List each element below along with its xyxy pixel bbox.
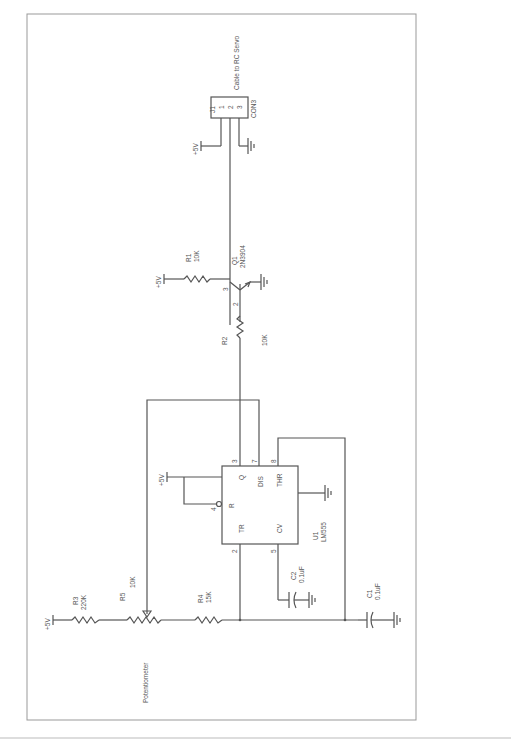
ground-icon [309, 592, 315, 608]
ic-pin-5: 5 [270, 549, 277, 553]
schematic-canvas: J1 1 2 3 CON3 Cable to RC Servo +5V +5V … [0, 0, 511, 747]
j1-part: CON3 [250, 100, 257, 118]
r5-value: 10K [129, 576, 136, 588]
j1-pin-1: 1 [218, 105, 225, 109]
supply-label-j1: +5V [192, 143, 199, 155]
supply-label-r1: +5V [155, 276, 162, 288]
q1-ref: Q1 [231, 256, 239, 265]
j1-pin-3: 3 [236, 105, 243, 109]
capacitor-c2 [278, 592, 309, 608]
resistor-r1 [164, 274, 230, 284]
ground-icon [248, 138, 254, 154]
ic-label-thr: THR [276, 473, 283, 487]
junction-dot [344, 619, 347, 622]
supply-label-ic: +5V [158, 474, 165, 486]
ground-icon [261, 274, 267, 290]
ic-part: LM555 [320, 522, 327, 542]
transistor-q1 [230, 282, 261, 322]
ic-label-q: Q [238, 475, 246, 480]
q1-part: 2N3904 [239, 245, 246, 268]
j1-description: Cable to RC Servo [233, 35, 240, 90]
ic-label-cv: CV [276, 523, 283, 533]
potentiometer-r5 [127, 611, 161, 623]
ground-icon [325, 485, 331, 501]
r2-value: 10K [261, 334, 268, 346]
ic-label-tr: TR [238, 524, 245, 533]
q1-pin-base: 2 [232, 302, 239, 306]
r1-value: 10K [193, 250, 200, 262]
discharge-wire [147, 400, 259, 614]
resistor-r2 [237, 316, 243, 466]
j1-ref: J1 [209, 106, 216, 113]
junction-dot [239, 619, 242, 622]
ic-pin-3: 3 [231, 459, 238, 463]
r1-ref: R1 [185, 253, 192, 262]
r2-ref: R2 [221, 336, 228, 345]
j1-pin-2: 2 [227, 105, 234, 109]
capacitor-c1 [358, 612, 394, 628]
supply-label-pot: +5V [44, 618, 51, 630]
ic-pin-4: 4 [210, 507, 217, 511]
reset-inversion-bubble [217, 502, 222, 507]
ground-icon [394, 612, 400, 628]
potentiometer-label: Potentiometer [142, 662, 149, 703]
r3-value: 220K [80, 594, 87, 610]
ic-ref: U1 [312, 531, 319, 540]
resistor-r3 [72, 617, 99, 623]
ic-label-r: R [228, 503, 235, 508]
r4-ref: R4 [197, 594, 204, 603]
ic-pin-7: 7 [251, 459, 258, 463]
threshold-wire [278, 438, 345, 620]
r3-ref: R3 [72, 596, 79, 605]
r5-ref: R5 [119, 592, 126, 601]
resistor-r4 [195, 617, 222, 623]
c1-ref: C1 [366, 589, 373, 598]
c2-ref: C2 [290, 571, 297, 580]
c1-value: 0.1uF [374, 583, 381, 600]
ic-pin-8: 8 [270, 459, 277, 463]
r4-value: 15K [205, 591, 212, 603]
ic-pin-2: 2 [231, 549, 238, 553]
q1-pin-collector: 3 [222, 287, 229, 291]
c2-value: 0.1uF [298, 566, 305, 583]
ic-label-dis: DIS [257, 476, 264, 488]
